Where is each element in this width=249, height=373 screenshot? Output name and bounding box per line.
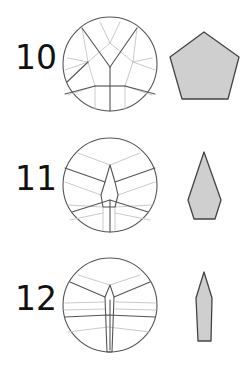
- folded-shape-pentagon: [170, 32, 239, 99]
- light-crease-line: [65, 182, 101, 195]
- light-crease-line: [65, 302, 104, 303]
- origami-step-diagram: 10 11 12: [0, 0, 249, 373]
- dark-crease-line: [67, 62, 88, 82]
- light-crease-line: [100, 22, 110, 43]
- light-crease-line: [64, 309, 105, 310]
- dark-crease-line: [65, 168, 105, 182]
- step-number-label: 11: [15, 159, 57, 198]
- light-crease-line: [133, 62, 155, 70]
- step-11: 11: [15, 138, 221, 232]
- light-crease-line: [115, 309, 156, 310]
- light-crease-line: [68, 205, 103, 207]
- light-crease-line: [78, 153, 110, 165]
- light-crease-line: [110, 275, 140, 285]
- light-crease-line: [68, 58, 88, 62]
- dark-crease-line: [114, 282, 150, 297]
- light-crease-line: [68, 327, 150, 332]
- light-crease-line: [110, 153, 140, 165]
- light-crease-line: [115, 205, 152, 207]
- step-10: 10: [15, 17, 239, 111]
- light-crease-line: [118, 182, 155, 195]
- step-number-label: 10: [15, 38, 57, 77]
- folded-shape-narrow-point: [196, 272, 212, 341]
- dark-crease-line: [115, 168, 155, 182]
- light-crease-line: [110, 22, 120, 43]
- light-crease-line: [116, 302, 155, 303]
- folded-shape-kite: [188, 152, 221, 219]
- dark-crease-line: [70, 282, 105, 297]
- crease-lines: [64, 275, 156, 352]
- light-crease-line: [133, 58, 152, 62]
- step-12: 12: [15, 258, 212, 352]
- light-crease-line: [78, 275, 110, 285]
- step-number-label: 12: [15, 279, 57, 318]
- crease-lines: [65, 22, 155, 111]
